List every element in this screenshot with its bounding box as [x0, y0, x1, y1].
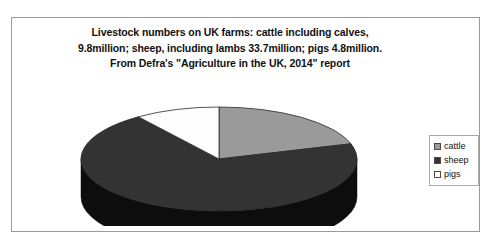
screenshot-root: Livestock numbers on UK farms: cattle in… — [0, 0, 495, 247]
legend-item-cattle[interactable]: cattle — [434, 140, 475, 153]
chart-title-line-2: 9.8million; sheep, including lambs 33.7m… — [30, 41, 430, 57]
chart-legend: cattle sheep pigs — [429, 135, 479, 186]
pie-chart — [67, 96, 367, 226]
legend-swatch-cattle — [434, 143, 441, 150]
chart-title: Livestock numbers on UK farms: cattle in… — [30, 25, 430, 72]
legend-label-pigs: pigs — [444, 170, 461, 179]
legend-swatch-pigs — [434, 171, 441, 178]
legend-swatch-sheep — [434, 157, 441, 164]
chart-frame: Livestock numbers on UK farms: cattle in… — [11, 17, 480, 232]
chart-title-line-1: Livestock numbers on UK farms: cattle in… — [30, 25, 430, 41]
pie-chart-svg — [67, 96, 367, 226]
legend-label-cattle: cattle — [444, 142, 466, 151]
pie-3d-tops — [81, 107, 357, 211]
legend-item-pigs[interactable]: pigs — [434, 168, 475, 181]
legend-label-sheep: sheep — [444, 156, 469, 165]
legend-item-sheep[interactable]: sheep — [434, 154, 475, 167]
chart-title-line-3: From Defra's "Agriculture in the UK, 201… — [30, 56, 430, 72]
